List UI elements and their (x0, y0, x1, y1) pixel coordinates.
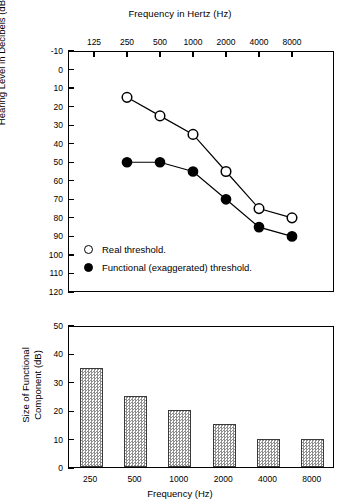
data-point-real (188, 130, 198, 140)
bottom-y-tick-label: 50 (54, 321, 63, 331)
top-y-tick-label: 30 (54, 120, 63, 130)
bottom-x-tick-label: 2000 (214, 474, 233, 484)
series-line-functional (127, 162, 292, 236)
data-point-real (254, 204, 264, 214)
top-x-tick (258, 51, 259, 57)
bottom-y-tick (68, 439, 74, 440)
data-point-functional (221, 195, 230, 204)
bottom-y-tick-label: 10 (54, 435, 63, 445)
legend-item: Real threshold. (84, 244, 166, 255)
bar (257, 439, 280, 467)
top-x-tick-label: 8000 (283, 37, 302, 47)
bottom-x-tick-label: 250 (83, 474, 97, 484)
top-y-tick-label: 100 (49, 250, 63, 260)
bottom-y-tick-label: 30 (54, 378, 63, 388)
bottom-x-tick-label: 4000 (258, 474, 277, 484)
top-y-tick (68, 217, 74, 218)
bar (124, 396, 147, 467)
data-point-real (221, 167, 231, 177)
top-y-tick-label: 40 (54, 139, 63, 149)
bottom-x-axis-title: Frequency (Hz) (0, 488, 360, 499)
data-point-functional (188, 167, 197, 176)
data-point-functional (122, 158, 131, 167)
top-x-tick (291, 51, 292, 57)
top-y-tick (68, 143, 74, 144)
top-y-tick (68, 291, 74, 292)
bottom-x-tick-label: 8000 (302, 474, 321, 484)
top-y-tick-label: 0 (58, 65, 63, 75)
top-y-tick (68, 199, 74, 200)
legend-label: Real threshold. (102, 244, 166, 255)
data-point-real (287, 213, 297, 223)
top-y-tick (68, 106, 74, 107)
data-point-real (155, 111, 165, 121)
top-x-tick (192, 51, 193, 57)
bar (301, 439, 324, 467)
bottom-y-tick-label: 40 (54, 349, 63, 359)
top-y-tick-label: 80 (54, 213, 63, 223)
top-y-tick-label: -10 (51, 46, 63, 56)
data-point-real (122, 93, 132, 103)
bottom-y-tick (68, 382, 74, 383)
bottom-x-tick-label: 1000 (169, 474, 188, 484)
top-y-tick (68, 273, 74, 274)
top-x-tick (93, 51, 94, 57)
functional-component-panel: 01020304050 2505001000200040008000 Size … (0, 308, 360, 504)
top-y-tick (68, 180, 74, 181)
bar (213, 424, 236, 467)
bottom-y-axis-title-line1: Size of Functional (20, 310, 32, 460)
bottom-y-tick (68, 411, 74, 412)
open-circle-icon (84, 245, 93, 254)
legend-label: Functional (exaggerated) threshold. (102, 262, 252, 273)
top-y-tick-label: 70 (54, 194, 63, 204)
top-x-tick (159, 51, 160, 57)
bottom-y-axis-title-line2: Component (dB) (32, 310, 44, 460)
bar (168, 410, 191, 467)
data-point-functional (155, 158, 164, 167)
bottom-plot-area (68, 326, 334, 468)
bottom-x-tick-label: 500 (127, 474, 141, 484)
legend-item: Functional (exaggerated) threshold. (84, 262, 252, 273)
top-y-tick (68, 125, 74, 126)
bottom-y-tick-label: 0 (58, 463, 63, 473)
bottom-y-tick (68, 467, 74, 468)
audiogram-figure: Frequency in Hertz (Hz) Hearing Level in… (0, 0, 360, 504)
top-y-tick-label: 20 (54, 102, 63, 112)
top-y-tick-label: 110 (49, 268, 63, 278)
top-x-tick-label: 500 (153, 37, 167, 47)
top-x-tick (225, 51, 226, 57)
top-y-tick-label: 50 (54, 157, 63, 167)
top-x-tick-label: 125 (87, 37, 101, 47)
bottom-y-tick-label: 20 (54, 406, 63, 416)
top-y-tick-label: 60 (54, 176, 63, 186)
top-y-tick (68, 254, 74, 255)
top-y-tick-label: 90 (54, 231, 63, 241)
top-y-tick (68, 87, 74, 88)
series-line-real (127, 97, 292, 218)
top-y-tick-label: 120 (49, 287, 63, 297)
top-x-tick-label: 2000 (217, 37, 236, 47)
top-y-tick-label: 10 (54, 83, 63, 93)
top-x-tick (126, 51, 127, 57)
top-y-tick (68, 236, 74, 237)
top-y-tick (68, 69, 74, 70)
top-x-tick-label: 250 (120, 37, 134, 47)
bottom-y-tick (68, 325, 74, 326)
top-x-tick-label: 4000 (250, 37, 269, 47)
top-y-tick (68, 50, 74, 51)
data-point-functional (287, 232, 296, 241)
data-point-functional (254, 223, 263, 232)
bar (80, 368, 103, 467)
audiogram-panel: Frequency in Hertz (Hz) Hearing Level in… (0, 0, 360, 308)
bottom-y-axis-title: Size of Functional Component (dB) (20, 310, 44, 460)
filled-circle-icon (84, 263, 93, 272)
top-y-tick (68, 162, 74, 163)
top-x-tick-label: 1000 (184, 37, 203, 47)
bottom-y-tick (68, 354, 74, 355)
